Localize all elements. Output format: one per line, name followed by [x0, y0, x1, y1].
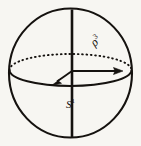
- label-s-exponent: 1: [72, 97, 75, 104]
- equator-back-dotted-arc: [10, 54, 132, 70]
- arrow-diagonal: [52, 71, 73, 86]
- label-s-one: S1: [66, 99, 75, 110]
- sphere-diagram-svg: [0, 0, 141, 146]
- arrow-horizontal: [72, 68, 123, 75]
- sphere-figure: ρ3 S1: [0, 0, 141, 146]
